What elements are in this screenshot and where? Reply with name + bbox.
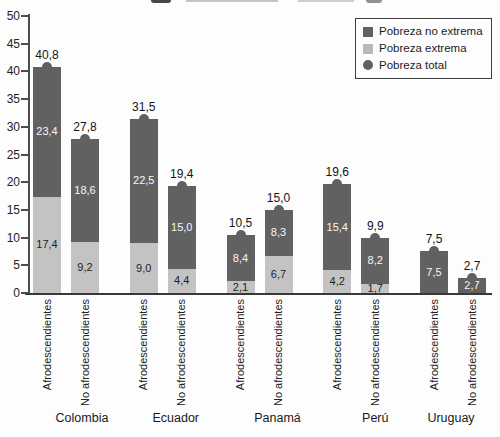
y-axis-tick-label: 50: [7, 10, 20, 22]
category-label: Afrodescendientes: [33, 299, 61, 409]
category-label: No afrodescendientes: [168, 299, 196, 409]
cropped-title-fragment: [151, 0, 171, 3]
legend-item-pobreza-no-extrema: Pobreza no extrema: [363, 25, 484, 39]
pobreza-no-extrema-swatch-icon: [363, 27, 373, 37]
pobreza-no-extrema-value: 15,4: [327, 222, 348, 233]
pobreza-extrema-swatch-icon: [363, 44, 373, 54]
cropped-title-fragment: [186, 0, 278, 2]
category-label: No afrodescendientes: [458, 299, 486, 409]
legend-item-pobreza-total: Pobreza total: [363, 59, 484, 73]
pobreza-extrema-value: 4,2: [330, 276, 345, 287]
category-label: Afrodescendientes: [130, 299, 158, 409]
category-label-text: Afrodescendientes: [235, 299, 246, 390]
stacked-bar: 40,823,417,4: [33, 67, 61, 293]
stacked-bar: 10,58,42,1: [227, 235, 255, 293]
pobreza-extrema-segment: 9,2: [71, 242, 99, 293]
pobreza-extrema-segment: 6,7: [265, 256, 293, 293]
y-axis-tick-label: 10: [7, 232, 20, 244]
bar-panama-afrodescendientes: 10,58,42,1: [227, 235, 255, 293]
category-label: No afrodescendientes: [265, 299, 293, 409]
category-label-text: Afrodescendientes: [429, 299, 440, 390]
pobreza-total-value: 31,5: [122, 101, 166, 113]
pobreza-no-extrema-segment: 22,5: [130, 119, 158, 244]
country-label-peru: Perú: [342, 412, 408, 428]
pobreza-extrema-value: 1,7: [368, 283, 383, 294]
y-axis-tick-mark: [21, 15, 28, 17]
category-label-text: No afrodescendientes: [273, 299, 284, 406]
pobreza-total-marker: [80, 134, 90, 144]
country-label-uruguay: Uruguay: [418, 412, 484, 428]
pobreza-no-extrema-segment: 15,4: [323, 184, 351, 269]
y-axis-tick-mark: [21, 98, 28, 100]
pobreza-total-value: 40,8: [25, 49, 69, 61]
y-axis-tick-label: 45: [7, 38, 20, 50]
category-label-text: No afrodescendientes: [176, 299, 187, 406]
pobreza-total-value: 9,9: [353, 220, 397, 232]
pobreza-extrema-segment: 4,4: [168, 269, 196, 293]
pobreza-no-extrema-value: 7,5: [426, 267, 441, 278]
stacked-bar: 15,08,36,7: [265, 210, 293, 293]
stacked-bar: 19,615,44,2: [323, 184, 351, 293]
y-axis-tick-label: 0: [13, 287, 20, 299]
bar-ecuador-afrodescendientes: 31,522,59,0: [130, 119, 158, 294]
pobreza-total-value: 27,8: [63, 121, 107, 133]
cropped-title-fragment: [366, 0, 382, 3]
y-axis-tick-mark: [21, 292, 28, 294]
country-label-colombia: Colombia: [49, 412, 115, 428]
stacked-bar: 27,818,69,2: [71, 139, 99, 293]
pobreza-extrema-value: 2,1: [233, 282, 248, 293]
category-labels-row: AfrodescendientesNo afrodescendientes: [33, 293, 99, 409]
y-axis-tick-label: 25: [7, 149, 20, 161]
bar-uruguay-afrodescendientes: 7,57,5: [420, 251, 448, 293]
bar-group-ecuador: 31,522,59,019,415,04,4AfrodescendientesN…: [130, 16, 196, 428]
pobreza-no-extrema-value: 23,4: [36, 126, 57, 137]
pobreza-total-value: 19,4: [160, 168, 204, 180]
pobreza-no-extrema-segment: 23,4: [33, 67, 61, 197]
pobreza-extrema-value: 6,7: [271, 269, 286, 280]
category-label: No afrodescendientes: [71, 299, 99, 409]
y-axis-tick-mark: [21, 209, 28, 211]
y-axis-tick-label: 15: [7, 204, 20, 216]
category-label-text: No afrodescendientes: [80, 299, 91, 406]
stacked-bar: 31,522,59,0: [130, 119, 158, 294]
pobreza-total-value: 10,5: [219, 217, 263, 229]
pobreza-total-marker: [139, 114, 149, 124]
category-labels-row: AfrodescendientesNo afrodescendientes: [130, 293, 196, 409]
pobreza-no-extrema-value: 15,0: [171, 222, 192, 233]
country-label-panama: Panamá: [245, 412, 311, 428]
category-labels-row: AfrodescendientesNo afrodescendientes: [420, 293, 486, 409]
pobreza-total-value: 2,7: [450, 260, 494, 272]
category-label: Afrodescendientes: [323, 299, 351, 409]
y-axis-tick-label: 40: [7, 65, 20, 77]
bar-colombia-afrodescendientes: 40,823,417,4: [33, 67, 61, 293]
bar-ecuador-no-afrodescendientes: 19,415,04,4: [168, 186, 196, 293]
pobreza-no-extrema-value: 8,3: [271, 227, 286, 238]
cropped-title-fragment: [298, 0, 354, 2]
y-axis-tick-mark: [21, 154, 28, 156]
pobreza-total-value: 15,0: [257, 192, 301, 204]
pobreza-extrema-segment: 2,1: [227, 281, 255, 293]
pobreza-no-extrema-value: 22,5: [133, 175, 154, 186]
bars-row: 40,823,417,427,818,69,2: [33, 16, 99, 293]
pobreza-total-marker: [274, 205, 284, 215]
y-axis-tick-mark: [21, 237, 28, 239]
legend-label: Pobreza extrema: [379, 42, 467, 56]
pobreza-extrema-segment: 4,2: [323, 270, 351, 293]
pobreza-extrema-value: 9,0: [136, 263, 151, 274]
bar-uruguay-no-afrodescendientes: 2,72,7: [458, 278, 486, 293]
category-label-text: Afrodescendientes: [138, 299, 149, 390]
pobreza-extrema-segment: 9,0: [130, 243, 158, 293]
y-axis-tick-label: 20: [7, 176, 20, 188]
pobreza-extrema-value: 9,2: [77, 262, 92, 273]
pobreza-no-extrema-value: 8,4: [233, 253, 248, 264]
pobreza-no-extrema-segment: 18,6: [71, 139, 99, 242]
category-label-text: No afrodescendientes: [467, 299, 478, 406]
pobreza-no-extrema-segment: 8,3: [265, 210, 293, 256]
pobreza-total-marker: [467, 273, 477, 283]
legend-item-pobreza-extrema: Pobreza extrema: [363, 42, 484, 56]
bars-row: 10,58,42,115,08,36,7: [227, 16, 293, 293]
stacked-bar: 19,415,04,4: [168, 186, 196, 293]
y-axis-tick-mark: [21, 70, 28, 72]
pobreza-extrema-segment: 17,4: [33, 197, 61, 293]
y-axis-tick-mark: [21, 264, 28, 266]
